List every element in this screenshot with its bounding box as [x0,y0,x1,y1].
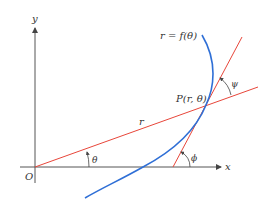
polar-curve [85,35,213,198]
theta-angle-arc [87,152,89,167]
polar-tangent-diagram: y x O r = f(θ) P(r, θ) r θ ϕ ψ [0,0,265,206]
point-label: P(r, θ) [175,93,207,104]
psi-angle-arc [220,78,231,95]
psi-label: ψ [231,79,239,89]
phi-label: ϕ [191,153,197,163]
curve-label: r = f(θ) [160,30,197,41]
radial-line [35,87,258,167]
radius-label: r [139,116,145,127]
phi-angle-arc [181,152,190,167]
x-axis-label: x [225,161,231,172]
y-axis-label: y [31,13,38,24]
origin-label: O [25,171,33,182]
theta-label: θ [92,155,98,165]
